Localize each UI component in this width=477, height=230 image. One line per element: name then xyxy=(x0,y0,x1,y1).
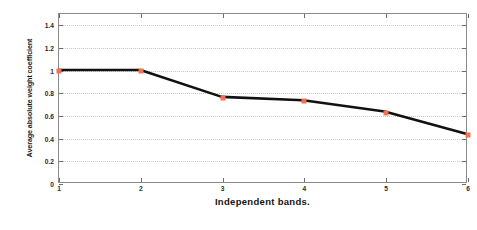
x-tick-label: 1 xyxy=(57,185,61,192)
x-tick-label: 3 xyxy=(221,185,225,192)
data-point-marker xyxy=(384,110,389,115)
data-point-marker xyxy=(302,99,307,104)
y-tick-label: 0.8 xyxy=(45,90,54,97)
chart-figure: Average absolute weight coefficient 00.2… xyxy=(0,0,477,230)
y-tick-label: 0.6 xyxy=(45,113,54,120)
plot-area: 00.20.40.60.811.21.4123456 xyxy=(58,13,467,183)
data-point-marker xyxy=(220,95,225,100)
x-tick-label: 2 xyxy=(139,185,143,192)
y-tick-label: 0.4 xyxy=(45,135,54,142)
y-tick-label: 0 xyxy=(50,181,54,188)
y-tick-label: 1 xyxy=(50,67,54,74)
x-tick-mark xyxy=(468,178,469,182)
data-series xyxy=(59,14,466,182)
x-axis-label: Independent bands. xyxy=(58,196,467,207)
data-point-marker xyxy=(138,68,143,73)
y-axis-label: Average absolute weight coefficient xyxy=(22,13,38,183)
y-tick-label: 0.2 xyxy=(45,158,54,165)
y-tick-label: 1.2 xyxy=(45,45,54,52)
data-point-marker xyxy=(466,133,471,138)
y-tick-label: 1.4 xyxy=(45,22,54,29)
series-line xyxy=(59,14,466,182)
x-tick-mark xyxy=(468,14,469,18)
x-tick-label: 5 xyxy=(384,185,388,192)
figure-margin xyxy=(0,214,477,230)
data-point-marker xyxy=(57,68,62,73)
x-tick-label: 6 xyxy=(466,185,470,192)
x-tick-label: 4 xyxy=(303,185,307,192)
